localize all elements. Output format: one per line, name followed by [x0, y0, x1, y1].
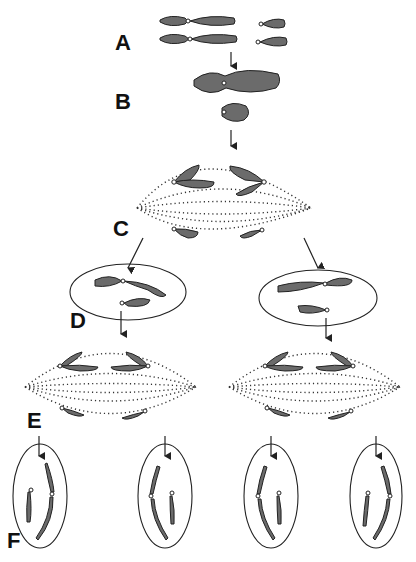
- label-b: B: [115, 91, 131, 113]
- stage-d-chromosomes: [95, 277, 352, 313]
- stage-c-spindle: [137, 169, 311, 229]
- stage-c-chromosomes: [172, 165, 266, 238]
- stage-f-cells: [13, 444, 402, 548]
- stage-e-chromosomes: [58, 352, 355, 419]
- label-c: C: [113, 218, 129, 240]
- meiosis-diagram: [0, 0, 416, 562]
- label-d: D: [70, 310, 86, 332]
- stage-a-chromosomes: [160, 16, 287, 46]
- label-e: E: [27, 410, 42, 432]
- label-f: F: [7, 530, 20, 552]
- label-a: A: [115, 32, 131, 54]
- stage-d-cells: [70, 264, 377, 326]
- stage-f-chromosomes: [27, 463, 392, 540]
- arrows: [39, 52, 376, 456]
- stage-b-paired-chromosomes: [194, 70, 280, 121]
